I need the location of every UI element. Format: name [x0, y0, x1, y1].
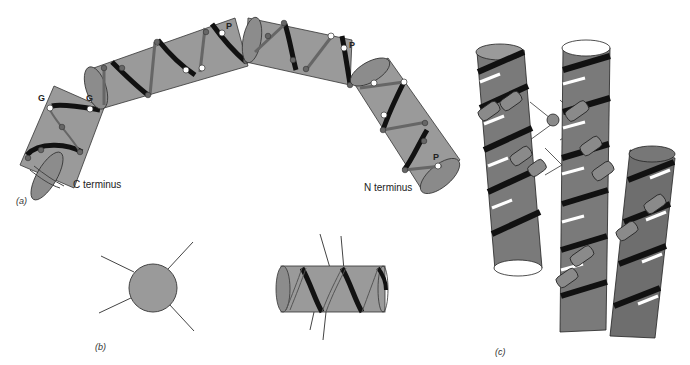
c-terminus-label: C terminus: [73, 179, 121, 190]
n-terminus-label: N terminus: [364, 182, 412, 193]
helix-cylinder-2: [547, 40, 615, 332]
coiled-coil-helices: [476, 40, 675, 338]
panel-label-b: (b): [95, 342, 106, 352]
residue-label-g-2: G: [86, 93, 93, 103]
helix-segment-3: [239, 16, 353, 88]
bent-helix-chain: [20, 16, 465, 205]
helical-wheel-end-view: [99, 242, 194, 331]
helix-segment-2: [80, 18, 249, 112]
helix-cylinder-3: [610, 146, 675, 338]
helix-cylinder-1: [476, 44, 548, 276]
residue-label-p-3: P: [433, 152, 439, 162]
helix-segment-4: [346, 52, 466, 200]
panel-label-a: (a): [16, 196, 27, 206]
panel-label-c: (c): [495, 347, 506, 357]
residue-label-p-2: P: [349, 40, 355, 50]
residue-label-p-1: P: [226, 21, 232, 31]
helix-side-view: [276, 234, 388, 340]
residue-label-g-1: G: [38, 93, 45, 103]
